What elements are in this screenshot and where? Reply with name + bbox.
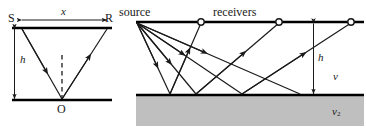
receiver-marker-1[interactable] — [198, 19, 204, 25]
receiver-marker-3[interactable] — [348, 19, 354, 25]
receiver-marker-2[interactable] — [276, 19, 282, 25]
receivers-label: receivers — [213, 6, 256, 18]
left-depth-label-h: h — [20, 54, 26, 65]
left-downgoing-ray-arrow — [22, 29, 47, 72]
right-panel-group — [136, 19, 364, 126]
reflection-point-label-O: O — [57, 103, 66, 115]
ray2-down-arrow — [137, 23, 170, 63]
source-point-label-S: S — [8, 12, 15, 24]
right-depth-label-h: h — [318, 52, 324, 63]
figure-canvas — [0, 0, 366, 138]
layer2-velocity-label: v2 — [332, 106, 340, 118]
ray3-up-arrow — [242, 54, 304, 94]
source-label: source — [119, 6, 150, 18]
layer1-velocity-label: v — [333, 71, 338, 82]
receiver-point-label-R: R — [105, 12, 113, 24]
left-upgoing-ray-arrow — [62, 56, 90, 99]
left-panel-group — [12, 20, 112, 100]
offset-label-x: x — [61, 6, 66, 17]
seismic-reflection-figure: S R x h O source receivers h v v2 — [0, 0, 366, 138]
lower-halfspace-region — [136, 96, 364, 126]
layer2-velocity-subscript: 2 — [337, 110, 341, 118]
